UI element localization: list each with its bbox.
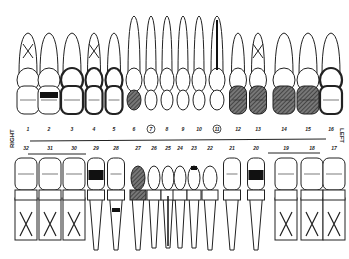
root (132, 196, 144, 250)
tooth-4[interactable] (86, 33, 103, 114)
crown-facial (173, 190, 187, 200)
upper-tooth-numbers: 12345678910111213141516 (27, 125, 334, 133)
tooth-3[interactable] (61, 33, 83, 114)
tooth-20[interactable] (248, 158, 265, 250)
crown-incisal (145, 90, 157, 110)
tooth-number-26: 26 (150, 145, 157, 151)
crown-incisal (177, 90, 189, 110)
tooth-32[interactable] (15, 158, 37, 240)
root (204, 196, 216, 250)
tooth-25[interactable] (161, 166, 175, 248)
tooth-number-3: 3 (71, 126, 74, 132)
crown-facial (108, 190, 125, 200)
crown-facial (144, 68, 158, 92)
crown-incisal (210, 90, 224, 110)
crown-facial (176, 68, 190, 92)
tooth-number-5: 5 (113, 126, 116, 132)
tooth-number-8: 8 (166, 126, 169, 132)
root (226, 196, 239, 250)
tooth-number-27: 27 (134, 145, 141, 151)
tooth-5[interactable] (106, 33, 123, 114)
tooth-21[interactable] (224, 158, 241, 250)
tooth-29[interactable] (88, 158, 105, 250)
tooth-22[interactable] (202, 166, 218, 250)
tooth-number-14: 14 (281, 126, 287, 132)
crown-incisal (162, 166, 174, 190)
root (39, 198, 61, 240)
tooth-8[interactable] (160, 16, 174, 110)
tooth-16[interactable] (320, 33, 342, 114)
tooth-10[interactable] (192, 16, 206, 110)
tooth-12[interactable] (230, 33, 247, 114)
tooth-number-19: 19 (283, 145, 289, 151)
filling (112, 208, 120, 212)
crown-facial (187, 190, 201, 200)
tooth-number-20: 20 (252, 145, 259, 151)
tooth-number-7: 7 (150, 126, 153, 132)
crown-incisal (148, 166, 160, 190)
crown-incisal (193, 90, 205, 110)
root (15, 198, 37, 240)
tooth-number-6: 6 (133, 126, 136, 132)
left-label: LEFT (339, 128, 345, 143)
tooth-number-1: 1 (27, 126, 30, 132)
root (178, 16, 188, 74)
tooth-number-24: 24 (176, 145, 183, 151)
midline-divider (30, 139, 326, 141)
root (90, 196, 103, 250)
filling (89, 170, 104, 180)
tooth-9[interactable] (176, 16, 190, 110)
crown-facial (248, 190, 265, 200)
crown-facial (63, 190, 85, 200)
root (323, 198, 345, 240)
tooth-6[interactable] (126, 16, 142, 110)
tooth-7[interactable] (144, 16, 158, 110)
tooth-13[interactable] (250, 33, 267, 114)
tooth-30[interactable] (63, 158, 85, 240)
dental-chart: 12345678910111213141516 3231302928272625… (0, 0, 349, 259)
crown-incisal (203, 166, 217, 190)
tooth-number-18: 18 (309, 145, 315, 151)
tooth-number-17: 17 (331, 145, 337, 151)
tooth-1[interactable] (17, 33, 39, 114)
tooth-number-22: 22 (206, 145, 213, 151)
tooth-31[interactable] (39, 158, 61, 240)
lower-arch (15, 158, 345, 250)
tooth-17[interactable] (323, 158, 345, 240)
crown-incisal (131, 166, 145, 190)
tooth-27[interactable] (130, 166, 146, 250)
filling (191, 166, 197, 170)
tooth-number-30: 30 (71, 145, 77, 151)
tooth-15[interactable] (297, 33, 319, 114)
crown-facial (160, 68, 174, 92)
tooth-18[interactable] (301, 158, 323, 240)
root (301, 198, 323, 240)
tooth-2[interactable] (38, 33, 60, 114)
crown-facial (126, 68, 142, 92)
tooth-number-21: 21 (228, 145, 235, 151)
tooth-number-9: 9 (182, 126, 185, 132)
tooth-11[interactable] (209, 16, 225, 110)
crown-facial (323, 190, 345, 200)
root (63, 198, 85, 240)
tooth-number-23: 23 (190, 145, 197, 151)
tooth-19[interactable] (275, 158, 297, 240)
root (110, 196, 123, 250)
tooth-number-12: 12 (235, 126, 241, 132)
tooth-number-13: 13 (255, 126, 261, 132)
root (194, 16, 204, 74)
crown-facial (192, 68, 206, 92)
tooth-number-28: 28 (112, 145, 119, 151)
tooth-24[interactable] (173, 166, 187, 248)
tooth-number-11: 11 (214, 126, 219, 132)
tooth-23[interactable] (187, 166, 201, 248)
tooth-number-2: 2 (47, 126, 51, 132)
tooth-26[interactable] (147, 166, 161, 248)
tooth-number-31: 31 (47, 145, 53, 151)
crown-facial (15, 190, 37, 200)
root (189, 196, 199, 248)
root (250, 196, 263, 250)
root (162, 16, 172, 74)
tooth-14[interactable] (273, 33, 295, 114)
tooth-28[interactable] (108, 158, 125, 250)
